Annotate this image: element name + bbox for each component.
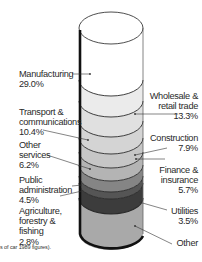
label-text: Manufacturing <box>19 69 73 79</box>
label-other: Other <box>177 238 198 248</box>
label-text: Agriculture, <box>19 206 62 216</box>
label-value: 10.4% <box>19 127 81 137</box>
label-text: services <box>19 150 50 160</box>
label-value: 6.2% <box>19 160 50 170</box>
label-text: fishing <box>19 226 62 236</box>
label-text: retail trade <box>150 101 198 111</box>
label-construction: Construction 7.9% <box>150 133 198 153</box>
label-finance: Finance & insurance 5.7% <box>159 165 198 196</box>
label-text: Transport & <box>19 107 81 117</box>
label-text: insurance <box>159 175 198 185</box>
label-other-services: Other services 6.2% <box>19 140 50 171</box>
label-value: 5.7% <box>159 185 198 195</box>
label-text: Other <box>177 238 198 248</box>
label-value: 3.5% <box>171 216 198 226</box>
footnote: s of car 1989 figures). <box>0 244 51 250</box>
label-text: Construction <box>150 133 198 143</box>
cylinder-bands <box>79 28 143 260</box>
label-public-admin: Public administration 4.5% <box>19 175 72 206</box>
cylinder-top <box>79 12 143 44</box>
label-text: communications <box>19 117 81 127</box>
label-utilities: Utilities 3.5% <box>171 206 198 226</box>
label-value: 7.9% <box>150 143 198 153</box>
label-value: 13.3% <box>150 111 198 121</box>
label-value: 29.0% <box>19 79 73 89</box>
label-text: Finance & <box>159 165 198 175</box>
label-text: Public <box>19 175 72 185</box>
label-text: Utilities <box>171 206 198 216</box>
label-text: Other <box>19 140 50 150</box>
label-text: administration <box>19 185 72 195</box>
label-text: forestry & <box>19 216 62 226</box>
label-agriculture: Agriculture, forestry & fishing 2.8% <box>19 206 62 247</box>
label-transport: Transport & communications 10.4% <box>19 107 81 138</box>
label-manufacturing: Manufacturing 29.0% <box>19 69 73 89</box>
label-text: Wholesale & <box>150 91 198 101</box>
label-value: 4.5% <box>19 195 72 205</box>
label-wholesale: Wholesale & retail trade 13.3% <box>150 91 198 122</box>
